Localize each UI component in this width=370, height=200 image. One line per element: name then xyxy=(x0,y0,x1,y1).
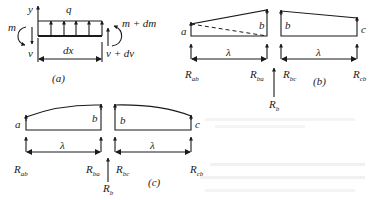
right-span-curved xyxy=(115,105,191,130)
span-length-label: λ xyxy=(225,46,231,58)
scan-noise xyxy=(200,118,365,192)
span-length-label: λ xyxy=(59,139,65,151)
left-span-trapezoid xyxy=(191,10,267,36)
node-c-label: c xyxy=(195,118,200,130)
y-axis-label: y xyxy=(27,3,33,15)
reaction-ab-label: Rab xyxy=(184,68,199,83)
node-a-label: a xyxy=(15,118,21,130)
load-label: q xyxy=(66,3,72,15)
support-reaction-label: Rb xyxy=(268,98,280,113)
figure-b-linear-load: a b b c λ λ Rab Rba Rbc Rcb Rb (b) xyxy=(181,9,367,113)
dashed-divider xyxy=(191,24,267,36)
reaction-ba-label: Rba xyxy=(85,163,100,178)
figure-c-caption: (c) xyxy=(148,176,161,189)
dx-label: dx xyxy=(63,44,74,56)
right-span-trapezoid xyxy=(281,11,357,36)
span-length-label: λ xyxy=(149,139,155,151)
left-shear-label: v xyxy=(28,47,33,59)
left-moment-arrow-icon xyxy=(18,27,26,45)
left-span-curved xyxy=(26,105,101,130)
span-length-label: λ xyxy=(315,46,321,58)
right-moment-arrow-icon xyxy=(112,26,122,46)
reaction-bc-label: Rbc xyxy=(282,68,297,83)
node-a-label: a xyxy=(181,25,187,37)
beam-diagram: y q m v m + dm v + dv dx (a) a b b c λ λ xyxy=(0,0,370,200)
right-shear-label: v + dv xyxy=(106,47,134,59)
reaction-ba-label: Rba xyxy=(249,68,264,83)
figure-a-beam-element: y q m v m + dm v + dv dx (a) xyxy=(8,3,156,85)
node-b-label: b xyxy=(120,114,126,126)
left-moment-label: m xyxy=(8,21,16,33)
reaction-cb-label: Rcb xyxy=(189,163,204,178)
figure-b-caption: (b) xyxy=(313,75,326,88)
node-b-label: b xyxy=(259,19,265,31)
distributed-load-arrows xyxy=(51,21,102,36)
node-b-label: b xyxy=(285,19,291,31)
right-moment-label: m + dm xyxy=(122,17,156,29)
node-c-label: c xyxy=(361,23,366,35)
reaction-bc-label: Rbc xyxy=(115,163,130,178)
reaction-cb-label: Rcb xyxy=(352,68,367,83)
figure-c-parabolic-load: a b b c λ λ Rab Rba Rbc Rcb Rb (c) xyxy=(13,104,204,197)
support-reaction-label: Rb xyxy=(102,182,114,197)
reaction-ab-label: Rab xyxy=(13,163,28,178)
node-b-label: b xyxy=(92,112,98,124)
figure-a-caption: (a) xyxy=(52,72,65,85)
